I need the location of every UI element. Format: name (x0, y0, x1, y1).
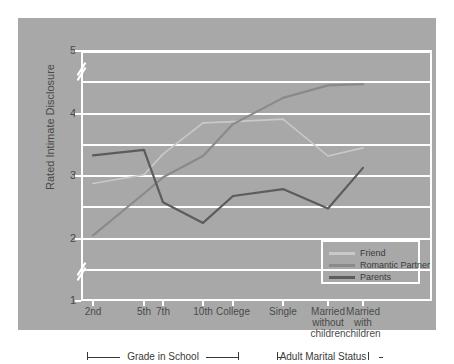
bracket-line-right (379, 357, 383, 358)
category-group-brackets: Grade in SchoolAdult Marital Status (81, 350, 432, 364)
x-tick-label-line: without (310, 317, 345, 328)
legend-label: Friend (360, 247, 386, 259)
chart-figure: 12345 Rated Intimate Disclosure FriendRo… (0, 0, 454, 364)
bracket-label: Grade in School (87, 350, 239, 363)
bracket-group-1: Adult Marital Status (277, 350, 369, 364)
y-axis-title: Rated Intimate Disclosure (44, 37, 56, 217)
legend-label: Romantic Partner (360, 259, 430, 271)
x-tick-label-line: children (310, 328, 345, 339)
chart-panel: 12345 Rated Intimate Disclosure FriendRo… (18, 18, 436, 330)
x-tick-label-line: 10th (193, 306, 212, 317)
bracket-group-0: Grade in School (87, 350, 239, 364)
x-tick-label-5: Single (269, 306, 297, 317)
y-tick-label-1: 1 (46, 295, 76, 306)
y-axis-title-wrap: Rated Intimate Disclosure (18, 51, 44, 301)
x-tick-label-line: children (345, 328, 380, 339)
x-tick-label-6: Marriedwithoutchildren (310, 306, 345, 339)
x-axis-tick-labels: 2nd5th7th10thCollegeSingleMarriedwithout… (81, 306, 432, 346)
legend-swatch (329, 276, 355, 279)
plot-area: FriendRomantic PartnerParents (81, 51, 432, 301)
x-tick-label-line: 7th (156, 306, 170, 317)
legend-label: Parents (360, 271, 391, 283)
x-tick-label-4: College (216, 306, 250, 317)
x-tick-label-line: 2nd (85, 306, 102, 317)
x-tick-label-0: 2nd (85, 306, 102, 317)
x-tick-label-2: 7th (156, 306, 170, 317)
x-tick-label-7: Marriedwithchildren (345, 306, 380, 339)
bracket-label: Adult Marital Status (277, 350, 369, 363)
legend-swatch (329, 264, 355, 267)
x-tick-label-line: College (216, 306, 250, 317)
x-tick-label-line: Single (269, 306, 297, 317)
legend-swatch (329, 252, 355, 255)
y-tick-label-2: 2 (46, 233, 76, 244)
x-tick-label-line: with (345, 317, 380, 328)
x-tick-label-line: Married (345, 306, 380, 317)
x-tick-label-line: 5th (137, 306, 151, 317)
x-tick-label-line: Married (310, 306, 345, 317)
x-tick-label-1: 5th (137, 306, 151, 317)
x-tick-label-3: 10th (193, 306, 212, 317)
chart-legend: FriendRomantic PartnerParents (321, 240, 420, 284)
